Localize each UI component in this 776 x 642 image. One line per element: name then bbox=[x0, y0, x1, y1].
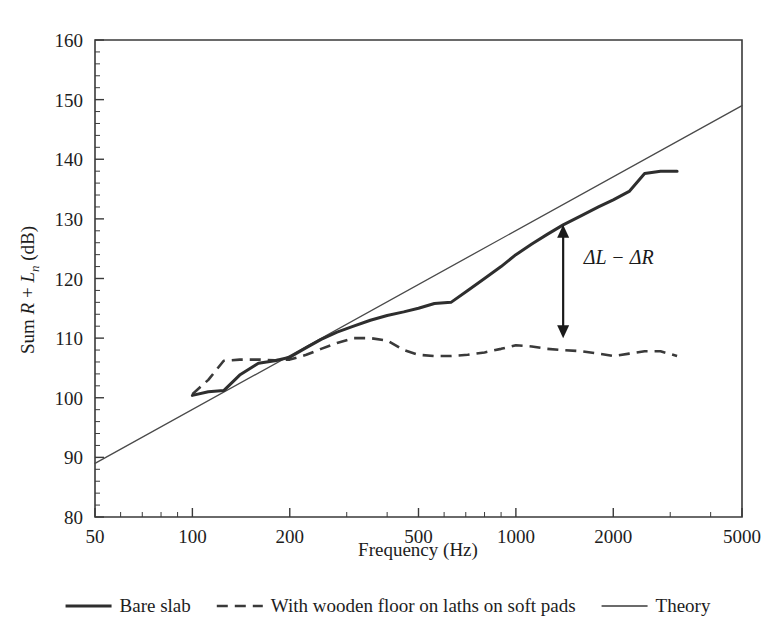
legend-item-label: With wooden floor on laths on soft pads bbox=[271, 595, 576, 616]
legend-item-label: Bare slab bbox=[120, 595, 191, 616]
y-tick-label: 150 bbox=[55, 90, 84, 111]
x-tick-label: 2000 bbox=[594, 526, 632, 547]
legend-item-label: Theory bbox=[656, 595, 711, 616]
x-tick-label: 50 bbox=[86, 526, 105, 547]
y-tick-label: 100 bbox=[55, 388, 84, 409]
y-axis-title-sym-r: R bbox=[17, 302, 38, 315]
y-tick-label: 90 bbox=[64, 447, 83, 468]
y-axis-title-unit: (dB) bbox=[17, 226, 39, 266]
x-tick-label: 1000 bbox=[497, 526, 535, 547]
y-tick-label: 110 bbox=[55, 328, 83, 349]
y-axis-title-prefix: Sum bbox=[17, 314, 38, 354]
y-tick-label: 120 bbox=[55, 269, 84, 290]
x-axis-title: Frequency (Hz) bbox=[358, 539, 478, 561]
chart-canvas: 8090100110120130140150160 50100200500100… bbox=[0, 0, 776, 642]
annotation-label: ΔL − ΔR bbox=[583, 246, 654, 268]
y-axis-title-plus: + bbox=[17, 283, 38, 303]
x-tick-label: 200 bbox=[276, 526, 305, 547]
y-tick-label: 130 bbox=[55, 209, 84, 230]
y-tick-label: 80 bbox=[64, 507, 83, 528]
y-axis-title-sym-l: L bbox=[17, 272, 38, 284]
chart-figure: 8090100110120130140150160 50100200500100… bbox=[0, 0, 776, 642]
y-tick-label: 160 bbox=[55, 30, 84, 51]
y-tick-label: 140 bbox=[55, 149, 84, 170]
x-tick-label: 100 bbox=[178, 526, 207, 547]
x-tick-label: 5000 bbox=[723, 526, 761, 547]
